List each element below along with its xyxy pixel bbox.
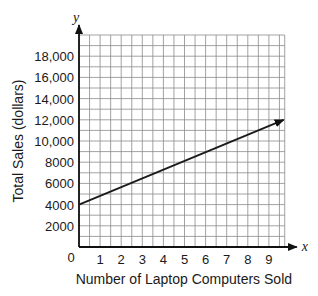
y-tick-label: 18,000 bbox=[34, 49, 74, 64]
y-tick-label: 8000 bbox=[45, 155, 74, 170]
x-tick-label: 4 bbox=[160, 252, 167, 267]
x-tick-label: 2 bbox=[118, 252, 125, 267]
x-tick-label: 9 bbox=[265, 252, 272, 267]
x-tick-label: 7 bbox=[223, 252, 230, 267]
origin-label: 0 bbox=[67, 250, 74, 265]
y-tick-label: 10,000 bbox=[34, 134, 74, 149]
x-tick-label: 5 bbox=[181, 252, 188, 267]
y-axis-variable: y bbox=[71, 10, 80, 25]
grid-lines bbox=[79, 35, 285, 247]
x-tick-label: 1 bbox=[96, 252, 103, 267]
x-tick-label: 3 bbox=[139, 252, 146, 267]
y-tick-label: 6000 bbox=[45, 176, 74, 191]
x-tick-label: 8 bbox=[244, 252, 251, 267]
x-tick-label: 6 bbox=[202, 252, 209, 267]
y-tick-label: 12,000 bbox=[34, 113, 74, 128]
y-axis-label: Total Sales (dollars) bbox=[10, 80, 26, 203]
y-tick-label: 16,000 bbox=[34, 70, 74, 85]
x-axis-label: Number of Laptop Computers Sold bbox=[76, 271, 292, 287]
y-tick-label: 2000 bbox=[45, 219, 74, 234]
tick-labels: 123456789200040006000800010,00012,00014,… bbox=[34, 49, 272, 267]
line-chart: 123456789200040006000800010,00012,00014,… bbox=[0, 0, 318, 296]
y-tick-label: 4000 bbox=[45, 198, 74, 213]
y-tick-label: 14,000 bbox=[34, 92, 74, 107]
x-axis-variable: x bbox=[301, 239, 309, 254]
axes bbox=[79, 25, 297, 247]
